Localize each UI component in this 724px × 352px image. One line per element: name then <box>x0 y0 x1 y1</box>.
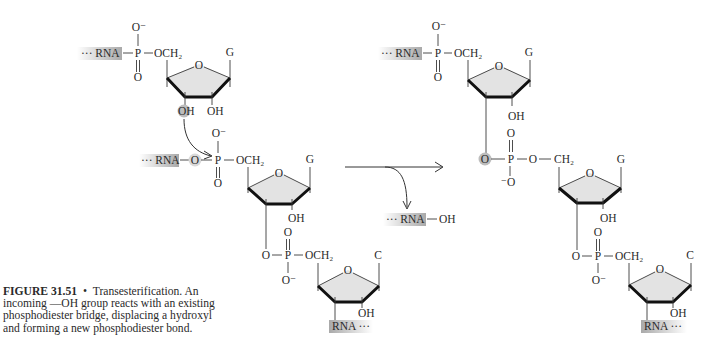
caption-line-3: phosphodiester bridge, displacing a hydr… <box>3 310 239 322</box>
phosphate-o-double: O <box>214 177 222 189</box>
product-new-phosphodiester: O O P ⁻O O CH₂ <box>479 127 575 188</box>
ring-oxygen: O <box>275 167 283 179</box>
ch2-group: CH₂ <box>554 153 574 165</box>
phosphate-o-double: O <box>594 226 602 238</box>
rna-label: ··· RNA <box>381 47 420 59</box>
oxygen-3prime: O <box>572 250 580 262</box>
och2-group: OCH₂ <box>236 154 264 166</box>
figure-number: FIGURE 31.51 <box>3 285 77 298</box>
reaction-arrow: ··· RNA OH <box>345 162 456 226</box>
byproduct-hydroxyl: OH <box>439 213 456 225</box>
figure-canvas: ··· RNA O⁻ P O OCH₂ G O OH OH <box>0 0 724 352</box>
rna-label: RNA ··· <box>332 320 370 332</box>
hydroxyl-2prime: OH <box>207 105 224 117</box>
byproduct-rna-label: ··· RNA <box>386 213 425 225</box>
phosphorus: P <box>435 47 441 59</box>
hydroxyl-2prime: OH <box>600 212 617 224</box>
phosphate-o-minus: ⁻O <box>501 176 515 188</box>
ring-oxygen: O <box>586 167 594 179</box>
phosphate-o-double: O <box>284 226 292 238</box>
phosphorus: P <box>215 154 221 166</box>
och2-group: OCH₂ <box>454 47 482 59</box>
oxygen-3prime-new: O <box>481 153 489 165</box>
base-g: G <box>306 153 314 165</box>
rna-label: ··· RNA <box>141 154 180 166</box>
caption-text-1: Transesterification. An <box>93 285 199 298</box>
oxygen-5prime: O <box>529 153 537 165</box>
hydroxyl-2prime: OH <box>670 307 687 319</box>
caption-line-4: and forming a new phosphodiester bond. <box>3 323 239 335</box>
product-nucleotide-2: G O OH <box>559 153 625 250</box>
och2-group: OCH₂ <box>615 250 643 262</box>
hydroxyl-2prime: OH <box>288 212 305 224</box>
phosphorus: P <box>508 153 514 165</box>
och2-group: OCH₂ <box>305 249 333 261</box>
ring-oxygen: O <box>195 59 203 71</box>
product-molecule: ··· RNA O⁻ P O OCH₂ G O OH O <box>378 20 694 333</box>
base-g: G <box>525 46 533 58</box>
reactant-nucleotide-3: C O OH RNA ··· <box>318 249 382 333</box>
phosphorus: P <box>595 250 601 262</box>
hydroxyl-2prime: OH <box>508 110 525 122</box>
reactant-phosphodiester: O O P O⁻ OCH₂ <box>262 226 333 286</box>
rna-label: ··· RNA <box>81 47 120 59</box>
product-phosphodiester: O O P O⁻ OCH₂ <box>572 226 643 286</box>
oxygen-3prime: O <box>262 249 270 261</box>
byproduct-branch-arrow <box>385 167 407 207</box>
och2-group: OCH₂ <box>154 47 182 59</box>
hydroxyl-3prime-attacking: OH <box>178 105 195 117</box>
rna-label: RNA ··· <box>644 320 682 332</box>
phosphorus: P <box>285 249 291 261</box>
ring-oxygen: O <box>344 264 352 276</box>
phosphate-o-minus: O⁻ <box>212 127 226 139</box>
ring-oxygen: O <box>495 60 503 72</box>
ring-oxygen: O <box>656 263 664 275</box>
base-g: G <box>226 46 234 58</box>
base-g: G <box>617 153 625 165</box>
hydroxyl-2prime: OH <box>358 307 375 319</box>
phosphorus: P <box>135 47 141 59</box>
bridge-oxygen: O <box>191 154 199 166</box>
reactant-nucleotide-1: ··· RNA O⁻ P O OCH₂ G O OH OH <box>77 21 234 159</box>
phosphate-o-double: O <box>507 127 515 139</box>
phosphate-o-double: O <box>434 71 442 83</box>
caption-bullet: • <box>83 285 87 298</box>
phosphate-o-minus: O⁻ <box>432 20 446 32</box>
base-c: C <box>686 249 694 261</box>
figure-caption: FIGURE 31.51 • Transesterification. An i… <box>3 286 239 335</box>
base-c: C <box>374 249 382 261</box>
phosphate-o-minus: O⁻ <box>592 274 606 286</box>
phosphate-o-double: O <box>134 71 142 83</box>
nucleophilic-attack-arrow <box>184 119 211 156</box>
phosphate-o-minus: O⁻ <box>282 274 296 286</box>
phosphate-o-minus: O⁻ <box>132 21 146 33</box>
